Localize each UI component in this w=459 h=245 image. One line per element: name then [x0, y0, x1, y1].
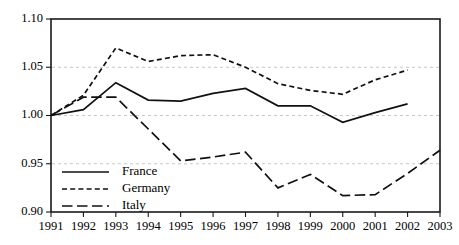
- data-series: [51, 48, 440, 196]
- y-tick-label-1: 0.95: [21, 156, 43, 170]
- x-tick-label-9: 2000: [330, 219, 355, 233]
- y-tick-label-0: 0.90: [21, 204, 43, 218]
- y-tick-label-3: 1.05: [21, 59, 43, 73]
- x-tick-label-11: 2002: [395, 219, 420, 233]
- x-axis-ticks: 1991199219931994199519961997199819992000…: [39, 212, 453, 233]
- y-tick-label-2: 1.00: [21, 107, 43, 121]
- y-axis-ticks: 0.900.951.001.051.10: [21, 11, 51, 218]
- legend-label-italy: Italy: [122, 197, 146, 212]
- x-tick-label-8: 1999: [298, 219, 323, 233]
- line-chart: 0.900.951.001.051.10 1991199219931994199…: [0, 0, 459, 245]
- x-tick-label-6: 1997: [233, 219, 258, 233]
- legend-label-france: France: [122, 163, 158, 178]
- series-line-italy: [51, 97, 440, 195]
- x-tick-label-4: 1995: [168, 219, 193, 233]
- legend-label-germany: Germany: [122, 180, 171, 195]
- gridlines: [52, 67, 439, 164]
- chart-container: 0.900.951.001.051.10 1991199219931994199…: [0, 0, 459, 245]
- x-tick-label-12: 2003: [428, 219, 453, 233]
- x-tick-label-0: 1991: [39, 219, 64, 233]
- x-tick-label-7: 1998: [265, 219, 290, 233]
- x-tick-label-2: 1993: [103, 219, 128, 233]
- chart-legend: FranceGermanyItaly: [62, 163, 171, 212]
- x-tick-label-1: 1992: [71, 219, 96, 233]
- x-tick-label-10: 2001: [363, 219, 388, 233]
- y-tick-label-4: 1.10: [21, 11, 43, 25]
- x-tick-label-5: 1996: [201, 219, 226, 233]
- x-tick-label-3: 1994: [136, 219, 162, 233]
- series-line-germany: [51, 48, 408, 116]
